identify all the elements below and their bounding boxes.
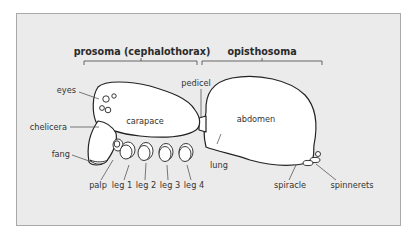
leg3-shape [159, 144, 173, 162]
spider-anatomy-diagram: prosoma (cephalothorax) opisthosoma [0, 0, 413, 243]
label-spinnerets: spinnerets [331, 180, 374, 190]
label-lung: lung [210, 160, 228, 170]
label-pedicel: pedicel [181, 78, 211, 88]
prosoma-bracket [84, 58, 197, 65]
label-leg2: leg 2 [136, 180, 156, 190]
label-palp: palp [89, 180, 107, 190]
label-eyes: eyes [57, 85, 76, 95]
leg2-shape [138, 143, 153, 161]
label-leg1: leg 1 [112, 180, 132, 190]
label-leg3: leg 3 [160, 180, 180, 190]
label-spiracle: spiracle [274, 180, 306, 190]
leg4-shape [179, 144, 193, 162]
label-fang: fang [52, 149, 70, 159]
label-chelicera: chelicera [30, 122, 67, 132]
opisthosoma-heading: opisthosoma [227, 46, 296, 57]
chelicera-shape [88, 121, 116, 165]
prosoma-heading: prosoma (cephalothorax) [74, 46, 211, 57]
label-abdomen: abdomen [237, 114, 276, 124]
label-leg4: leg 4 [184, 180, 204, 190]
opisthosoma-bracket [202, 58, 322, 65]
label-carapace: carapace [126, 116, 164, 126]
